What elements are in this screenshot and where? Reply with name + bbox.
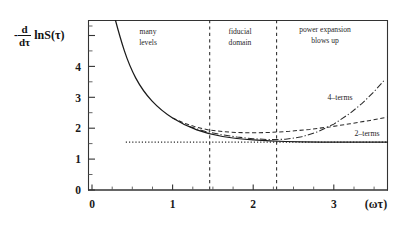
annotation-power-expansion-line2: blows up [311, 36, 339, 45]
x-tick-2: 2 [250, 198, 256, 210]
x-axis-label: (ωτ) [365, 197, 387, 211]
y-tick-0: 0 [75, 184, 81, 196]
y-tick-1: 1 [75, 153, 81, 165]
annotation-many-levels-line1: many [140, 27, 157, 36]
curve-labels: 4–terms 2–terms [327, 93, 379, 138]
annotation-fiducial-domain-line1: fiducial [228, 27, 251, 36]
annotation-many-levels-line2: levels [139, 38, 157, 47]
x-axis-tick-labels: 0 1 2 3 (ωτ) [89, 197, 387, 211]
x-tick-3: 3 [331, 198, 337, 210]
y-tick-3: 3 [75, 92, 81, 104]
y-axis-tick-labels: 0 1 2 3 4 [75, 61, 81, 197]
region-annotations: many levels fiducial domain power expans… [139, 25, 351, 47]
x-tick-0: 0 [89, 198, 95, 210]
y-tick-4: 4 [75, 61, 81, 73]
annotation-fiducial-domain-line2: domain [229, 38, 252, 47]
chart-svg: 0 1 2 3 4 0 1 2 3 (ωτ) many levels fiduc… [0, 0, 408, 243]
figure-container: -ddτ lnS(τ) [0, 0, 408, 243]
y-axis-minor-ticks [89, 26, 93, 175]
y-tick-2: 2 [75, 122, 81, 134]
x-tick-1: 1 [170, 198, 176, 210]
annotation-power-expansion-line1: power expansion [299, 25, 351, 34]
curve-label-4-terms: 4–terms [327, 93, 352, 102]
curve-label-2-terms: 2–terms [354, 129, 379, 138]
